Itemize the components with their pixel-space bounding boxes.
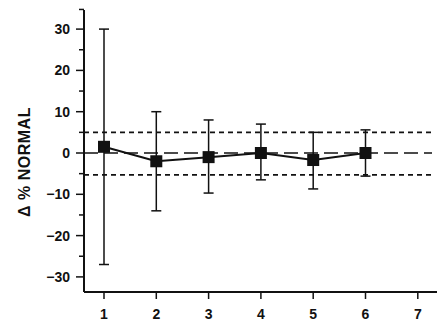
x-tick-label: 3 [205, 306, 213, 322]
data-point-square-marker [98, 141, 110, 153]
x-tick-label: 4 [257, 306, 265, 322]
data-point-square-marker [255, 147, 267, 159]
y-tick-label: 0 [62, 145, 70, 161]
y-tick-label: 30 [54, 21, 70, 37]
series-line [104, 147, 366, 161]
y-tick-label: −10 [46, 186, 70, 202]
data-series [98, 29, 372, 264]
data-point-square-marker [307, 154, 319, 166]
y-tick-label: −20 [46, 228, 70, 244]
data-point-square-marker [360, 147, 372, 159]
x-tick-label: 2 [152, 306, 160, 322]
x-tick-label: 6 [362, 306, 370, 322]
data-point-square-marker [150, 155, 162, 167]
x-tick-label: 1 [100, 306, 108, 322]
x-tick-label: 5 [309, 306, 317, 322]
y-axis-label: Δ % NORMAL [16, 107, 33, 217]
data-point-square-marker [203, 151, 215, 163]
chart: 3020100−10−20−301234567 Δ % NORMAL [0, 0, 447, 329]
x-tick-label: 7 [414, 306, 422, 322]
y-tick-label: −30 [46, 269, 70, 285]
y-tick-label: 10 [54, 104, 70, 120]
y-tick-label: 20 [54, 62, 70, 78]
